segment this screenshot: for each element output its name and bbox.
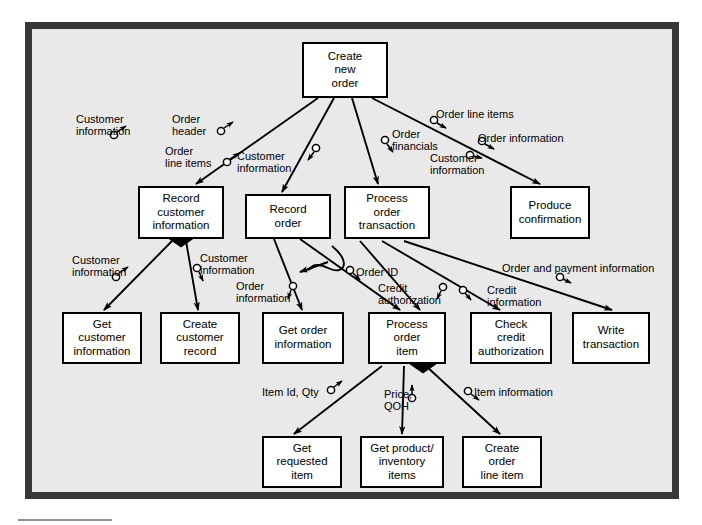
module-label: Check credit authorization bbox=[478, 318, 544, 359]
module-label: Get order information bbox=[275, 324, 332, 351]
module-label: Create order line item bbox=[481, 442, 524, 483]
edge-poi-to-get-requested-item bbox=[294, 366, 382, 434]
module-label: Create customer record bbox=[176, 318, 223, 359]
module-label: Get requested item bbox=[276, 442, 327, 483]
data-couple-label-c17: Price, QOH bbox=[384, 388, 412, 413]
module-process-order-item[interactable]: Process order item bbox=[368, 312, 446, 364]
data-couple-label-c8: Customer information bbox=[430, 152, 484, 177]
data-couple-label-c15: Order and payment information bbox=[502, 262, 654, 274]
data-couple-label-c14: Credit information bbox=[487, 284, 541, 309]
data-couple-label-c6: Order line items bbox=[436, 108, 514, 120]
edge-create-to-process-order-transaction bbox=[352, 98, 378, 184]
module-write-transaction[interactable]: Write transaction bbox=[572, 312, 650, 364]
module-label: Record customer information bbox=[153, 192, 210, 233]
data-couple-label-c12: Order ID bbox=[356, 266, 398, 278]
edge-rci-to-create-customer-record bbox=[186, 241, 198, 310]
data-couple-label-c5: Order financials bbox=[392, 128, 438, 153]
edge-poi-to-create-order-line-item bbox=[426, 366, 500, 434]
module-create-order-line-item[interactable]: Create order line item bbox=[462, 436, 542, 488]
data-couple-label-c4: Customer information bbox=[237, 150, 291, 175]
data-couple-label-c11: Order information bbox=[236, 280, 290, 305]
data-couple-label-c2: Order header bbox=[172, 113, 206, 138]
data-couple-label-c18: Item information bbox=[474, 386, 553, 398]
module-create-new-order[interactable]: Create new order bbox=[302, 42, 388, 98]
module-label: Produce confirmation bbox=[519, 199, 582, 226]
data-couple-label-c16: Item Id, Qty bbox=[262, 386, 319, 398]
module-get-customer-information[interactable]: Get customer information bbox=[62, 312, 142, 364]
data-couple-label-c9: Customer information bbox=[72, 254, 126, 279]
edge-create-to-record-order bbox=[282, 98, 334, 192]
module-record-customer-info[interactable]: Record customer information bbox=[138, 186, 224, 239]
module-record-order[interactable]: Record order bbox=[245, 194, 331, 239]
module-check-credit-authorization[interactable]: Check credit authorization bbox=[470, 312, 552, 364]
caption-rule bbox=[18, 519, 112, 521]
data-couple-label-c3: Order line items bbox=[165, 145, 211, 170]
module-get-order-information[interactable]: Get order information bbox=[262, 312, 344, 364]
data-couple-label-c13: Credit authorization bbox=[378, 282, 441, 307]
data-couple-label-c10: Customer information bbox=[200, 252, 254, 277]
structure-chart-page: Create new orderRecord customer informat… bbox=[0, 0, 702, 525]
module-label: Write transaction bbox=[583, 324, 639, 351]
module-label: Create new order bbox=[328, 50, 363, 91]
module-label: Get product/ inventory items bbox=[370, 442, 433, 483]
module-get-product-inventory-items[interactable]: Get product/ inventory items bbox=[360, 436, 444, 488]
data-couple-label-c1: Customer information bbox=[76, 113, 130, 138]
module-create-customer-record[interactable]: Create customer record bbox=[160, 312, 240, 364]
module-get-requested-item[interactable]: Get requested item bbox=[262, 436, 342, 488]
module-label: Record order bbox=[269, 203, 306, 230]
module-label: Process order transaction bbox=[359, 192, 415, 233]
module-process-order-transaction[interactable]: Process order transaction bbox=[344, 186, 430, 239]
module-label: Get customer information bbox=[74, 318, 131, 359]
data-couple-label-c7: Order information bbox=[478, 132, 564, 144]
module-produce-confirmation[interactable]: Produce confirmation bbox=[510, 186, 590, 239]
module-label: Process order item bbox=[386, 318, 428, 359]
